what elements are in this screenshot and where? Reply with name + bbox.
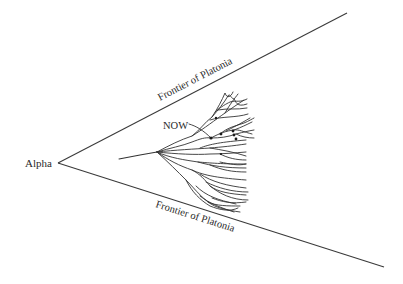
alpha-label: Alpha (25, 157, 52, 169)
tree-nodes (209, 117, 237, 155)
node-dot (235, 138, 238, 141)
now-node (209, 136, 212, 139)
tree-trunk (119, 152, 157, 159)
upper-frontier-label: Frontier of Platonia (156, 55, 234, 103)
lower-frontier-line (58, 163, 384, 267)
node-dot (233, 134, 236, 137)
platonia-diagram: Alpha Frontier of Platonia Frontier of P… (0, 0, 403, 284)
node-dot (232, 130, 235, 133)
branching-tree (119, 92, 254, 212)
diagram-svg: Alpha Frontier of Platonia Frontier of P… (0, 0, 403, 284)
upper-frontier-line (58, 13, 347, 163)
node-dot (220, 133, 223, 136)
now-label: NOW (163, 120, 188, 131)
node-dot (220, 153, 222, 155)
node-dot (215, 117, 217, 119)
